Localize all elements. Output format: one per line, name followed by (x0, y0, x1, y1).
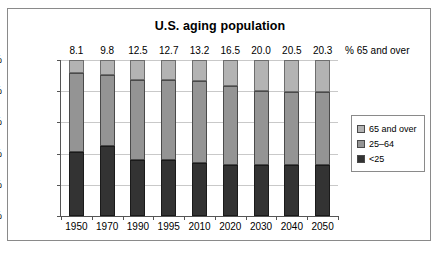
x-axis-tick-mark (184, 216, 185, 220)
x-axis-tick-mark (246, 216, 247, 220)
bar-stack[interactable] (100, 60, 115, 216)
bar-stack[interactable] (223, 60, 238, 216)
bar-segment[interactable] (284, 92, 299, 165)
bar-segment[interactable] (315, 92, 330, 165)
x-axis-tick-mark (338, 216, 339, 220)
y-axis-tick-mark (57, 91, 61, 92)
x-axis-tick-label: 2050 (303, 221, 343, 232)
top-percent-label: 16.5 (213, 45, 247, 56)
chart-legend: 65 and over25–64<25 (351, 115, 425, 172)
legend-item-label: 65 and over (369, 124, 417, 134)
bar-stack[interactable] (254, 60, 269, 216)
top-percent-label: 9.8 (90, 45, 124, 56)
plot-area: 0%20%40%60%80%100%1950197019901995201020… (61, 60, 338, 216)
x-axis-tick-mark (92, 216, 93, 220)
bar-stack[interactable] (192, 60, 207, 216)
top-percent-label: 20.0 (244, 45, 278, 56)
bar-segment[interactable] (284, 165, 299, 216)
bar-stack[interactable] (130, 60, 145, 216)
x-axis-tick-mark (61, 216, 62, 220)
bar-segment[interactable] (223, 86, 238, 165)
legend-item[interactable]: 25–64 (357, 136, 420, 151)
y-axis-tick-label: 40% (0, 148, 2, 159)
bar-segment[interactable] (69, 73, 84, 152)
x-axis-tick-mark (123, 216, 124, 220)
top-percent-label-row: 8.19.812.512.713.216.520.020.520.3% 65 a… (8, 45, 432, 59)
bar-segment[interactable] (69, 152, 84, 216)
bar-segment[interactable] (100, 146, 115, 216)
legend-item[interactable]: 65 and over (357, 121, 420, 136)
top-percent-label: 8.1 (59, 45, 93, 56)
bar-segment[interactable] (223, 60, 238, 86)
bar-segment[interactable] (315, 165, 330, 216)
bar-segment[interactable] (315, 60, 330, 92)
bar-segment[interactable] (192, 81, 207, 163)
bar-stack[interactable] (69, 60, 84, 216)
x-axis-tick-mark (276, 216, 277, 220)
chart-title: U.S. aging population (8, 19, 432, 33)
top-percent-label: 12.7 (152, 45, 186, 56)
y-axis-tick-mark (57, 122, 61, 123)
bar-segment[interactable] (192, 60, 207, 81)
y-axis-tick-mark (57, 185, 61, 186)
y-axis-tick-label: 80% (0, 85, 2, 96)
bar-stack[interactable] (284, 60, 299, 216)
top-percent-label: 13.2 (183, 45, 217, 56)
top-percent-label: 20.5 (275, 45, 309, 56)
y-axis-line (60, 60, 61, 216)
bar-segment[interactable] (161, 60, 176, 80)
x-axis-line (60, 216, 338, 217)
x-axis-tick-mark (215, 216, 216, 220)
y-axis-tick-label: 100% (0, 54, 2, 65)
bar-segment[interactable] (254, 91, 269, 164)
bar-segment[interactable] (161, 160, 176, 216)
bar-segment[interactable] (100, 60, 115, 75)
x-axis-tick-mark (307, 216, 308, 220)
bar-segment[interactable] (254, 165, 269, 216)
bar-stack[interactable] (315, 60, 330, 216)
y-axis-tick-label: 60% (0, 116, 2, 127)
y-axis-tick-mark (57, 154, 61, 155)
bar-segment[interactable] (223, 165, 238, 216)
chart-frame: U.S. aging population 8.19.812.512.713.2… (7, 8, 431, 241)
bar-segment[interactable] (192, 163, 207, 216)
top-percent-label: 12.5 (121, 45, 155, 56)
top-percent-label: 20.3 (306, 45, 340, 56)
y-axis-tick-mark (57, 60, 61, 61)
legend-item-label: 25–64 (369, 139, 394, 149)
x-axis-tick-mark (153, 216, 154, 220)
bar-segment[interactable] (130, 80, 145, 160)
bar-segment[interactable] (69, 60, 84, 73)
bar-segment[interactable] (130, 160, 145, 216)
legend-item[interactable]: <25 (357, 151, 420, 166)
bar-segment[interactable] (284, 60, 299, 92)
y-axis-tick-label: 20% (0, 179, 2, 190)
bar-segment[interactable] (161, 80, 176, 160)
bar-segment[interactable] (100, 75, 115, 146)
bar-stack[interactable] (161, 60, 176, 216)
y-axis-tick-label: 0% (0, 210, 2, 221)
legend-swatch-icon (357, 140, 365, 148)
legend-swatch-icon (357, 125, 365, 133)
bar-segment[interactable] (130, 60, 145, 80)
legend-swatch-icon (357, 155, 365, 163)
legend-item-label: <25 (369, 154, 384, 164)
bar-segment[interactable] (254, 60, 269, 91)
top-label-caption: % 65 and over (345, 45, 435, 56)
